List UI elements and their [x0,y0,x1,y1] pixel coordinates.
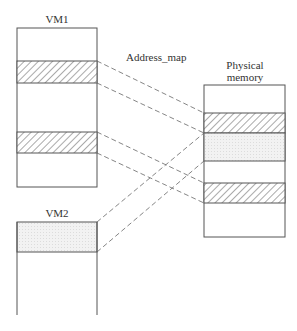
vm1-label: VM1 [45,13,68,25]
address-map-diagram: VM1 VM2 Address_map Physical memory [0,0,297,331]
map-vm2-bottom [97,161,204,252]
mapping-lines [97,61,204,252]
physical-frame-hatched-1 [204,113,285,133]
physical-label-line1: Physical [226,59,263,71]
physical-label-line2: memory [227,71,264,83]
vm1-page-1-hatched [17,61,97,83]
address-map-label: Address_map [126,51,187,63]
vm1-block: VM1 [17,13,97,187]
vm2-page-dotted [17,222,97,252]
vm1-box [17,28,97,187]
vm2-label: VM2 [45,207,68,219]
physical-frame-hatched-2 [204,183,285,203]
physical-memory-block: Physical memory [204,59,285,237]
map-vm2-top [97,133,204,222]
vm1-page-2-hatched [17,132,97,153]
map-vm1-p2-bottom [97,153,204,203]
vm2-block: VM2 [17,207,97,315]
physical-frame-dotted [204,133,285,161]
map-vm1-p1-top [97,61,204,113]
map-vm1-p1-bottom [97,83,204,133]
map-vm1-p2-top [97,132,204,183]
